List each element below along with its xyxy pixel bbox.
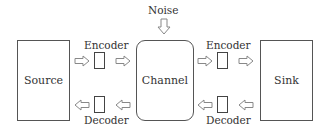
channel-to-encoder-arrow-icon	[197, 55, 213, 67]
left-decoder-box	[94, 96, 105, 113]
channel-to-decoder-arrow-icon	[115, 99, 131, 111]
decoder-to-source-arrow-icon	[74, 99, 90, 111]
source-label: Source	[24, 74, 63, 87]
sink-node: Sink	[260, 40, 313, 121]
right-encoder-label: Encoder	[206, 39, 251, 51]
noise-down-arrow-icon	[157, 18, 171, 36]
encoder-to-sink-arrow-icon	[238, 55, 254, 67]
channel-node: Channel	[136, 40, 194, 121]
source-to-encoder-arrow-icon	[74, 55, 90, 67]
noise-label: Noise	[148, 4, 178, 16]
right-encoder-box	[217, 52, 228, 69]
encoder-to-channel-arrow-icon	[115, 55, 131, 67]
left-encoder-label: Encoder	[84, 39, 129, 51]
right-decoder-box	[217, 96, 228, 113]
decoder-to-channel-arrow-icon	[197, 99, 213, 111]
source-node: Source	[17, 40, 70, 121]
sink-to-decoder-arrow-icon	[238, 99, 254, 111]
sink-label: Sink	[274, 74, 299, 87]
channel-label: Channel	[142, 74, 188, 87]
left-encoder-box	[94, 52, 105, 69]
right-decoder-label: Decoder	[206, 114, 251, 126]
left-decoder-label: Decoder	[84, 114, 129, 126]
